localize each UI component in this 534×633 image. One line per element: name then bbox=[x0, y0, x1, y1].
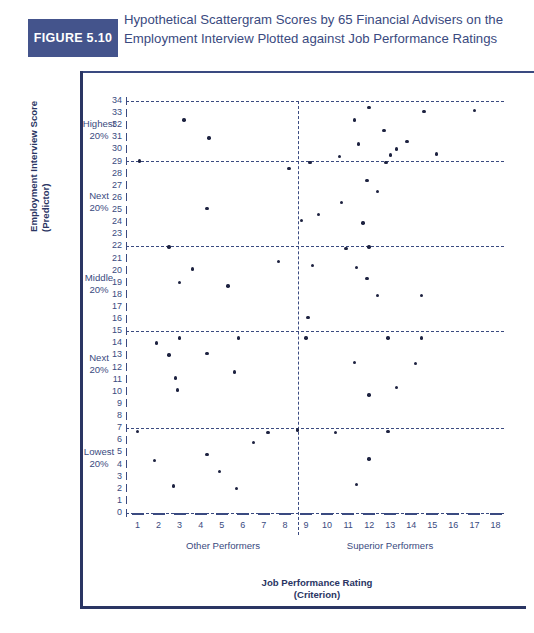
data-point bbox=[136, 430, 139, 433]
data-point bbox=[167, 353, 170, 356]
reference-line-vertical bbox=[298, 101, 299, 535]
data-point bbox=[376, 294, 379, 297]
band-label-percent: 20% bbox=[64, 202, 134, 214]
x-tick-label: 7 bbox=[254, 521, 274, 530]
x-tick-label: 16 bbox=[443, 521, 463, 530]
band-label-percent: 20% bbox=[64, 364, 134, 376]
reference-line-horizontal bbox=[126, 428, 505, 429]
data-point bbox=[308, 161, 311, 164]
y-tick-label: 23 bbox=[104, 229, 122, 238]
y-tick-label: 22 bbox=[104, 241, 122, 250]
y-tick-label: 19 bbox=[104, 278, 122, 287]
y-tick-label: 4 bbox=[104, 460, 122, 469]
data-point bbox=[365, 277, 368, 280]
x-tick-label: 2 bbox=[149, 521, 169, 530]
data-point bbox=[355, 266, 358, 269]
x-tick-label: 17 bbox=[464, 521, 484, 530]
data-point bbox=[306, 316, 309, 319]
x-tick-label: 9 bbox=[296, 521, 316, 530]
reference-line-horizontal bbox=[126, 161, 505, 162]
data-point bbox=[233, 370, 236, 373]
x-tick-label: 1 bbox=[128, 521, 148, 530]
y-tick-label: 27 bbox=[104, 181, 122, 190]
y-tick-label: 1 bbox=[104, 496, 122, 505]
data-point bbox=[300, 219, 303, 222]
data-point bbox=[191, 267, 194, 270]
data-point bbox=[473, 109, 476, 112]
y-tick-label: 2 bbox=[104, 484, 122, 493]
reference-line-baseline bbox=[126, 513, 505, 514]
data-point bbox=[172, 484, 175, 487]
y-axis-title: Employment Interview Score (Predictor) bbox=[28, 52, 51, 232]
data-point bbox=[167, 245, 170, 248]
data-point bbox=[311, 264, 314, 267]
y-tick-label: 13 bbox=[104, 350, 122, 359]
data-point bbox=[395, 147, 398, 150]
data-point bbox=[338, 155, 341, 158]
data-point bbox=[207, 136, 210, 139]
data-point bbox=[304, 336, 307, 339]
band-label-name: Middle bbox=[64, 272, 134, 284]
y-tick-label: 10 bbox=[104, 387, 122, 396]
group-label-1: Superior Performers bbox=[310, 540, 470, 551]
y-tick-label: 15 bbox=[104, 326, 122, 335]
data-point bbox=[317, 213, 320, 216]
x-tick-label: 8 bbox=[275, 521, 295, 530]
data-point bbox=[353, 361, 356, 364]
reference-line-horizontal bbox=[126, 246, 505, 247]
y-tick-label: 34 bbox=[104, 96, 122, 105]
y-tick-label: 20 bbox=[104, 266, 122, 275]
x-tick-label: 4 bbox=[191, 521, 211, 530]
data-point bbox=[340, 201, 343, 204]
band-label-name: Next bbox=[64, 352, 134, 364]
y-tick-label: 33 bbox=[104, 108, 122, 117]
data-point bbox=[235, 487, 238, 490]
y-tick-label: 9 bbox=[104, 399, 122, 408]
y-tick-label: 21 bbox=[104, 254, 122, 263]
data-point bbox=[226, 284, 229, 287]
x-axis-title-line2: (Criterion) bbox=[137, 589, 497, 601]
data-point bbox=[367, 393, 370, 396]
band-label-0: Highest20% bbox=[64, 118, 134, 141]
data-point bbox=[176, 388, 179, 391]
data-point bbox=[178, 281, 181, 284]
data-point bbox=[266, 431, 269, 434]
data-point bbox=[435, 152, 438, 155]
y-tick-label: 11 bbox=[104, 375, 122, 384]
data-point bbox=[420, 336, 423, 339]
y-tick-label: 14 bbox=[104, 338, 122, 347]
reference-line-horizontal bbox=[126, 101, 505, 102]
data-point bbox=[422, 110, 425, 113]
x-tick-label: 3 bbox=[170, 521, 190, 530]
band-label-3: Next20% bbox=[64, 352, 134, 375]
y-tick-label: 26 bbox=[104, 193, 122, 202]
data-point bbox=[367, 245, 370, 248]
y-tick-label: 31 bbox=[104, 132, 122, 141]
data-point bbox=[353, 118, 356, 121]
x-tick-label: 12 bbox=[359, 521, 379, 530]
data-point bbox=[355, 483, 358, 486]
reference-line-horizontal bbox=[126, 331, 505, 332]
band-label-percent: 20% bbox=[64, 458, 134, 470]
y-tick-label: 29 bbox=[104, 157, 122, 166]
y-tick-label: 17 bbox=[104, 302, 122, 311]
x-tick-label: 18 bbox=[486, 521, 506, 530]
x-tick-label: 14 bbox=[401, 521, 421, 530]
data-point bbox=[414, 362, 417, 365]
data-point bbox=[384, 161, 387, 164]
data-point bbox=[287, 167, 290, 170]
y-tick-label: 5 bbox=[104, 447, 122, 456]
data-point bbox=[182, 118, 185, 121]
x-axis-title: Job Performance Rating (Criterion) bbox=[137, 577, 497, 600]
y-tick-label: 8 bbox=[104, 411, 122, 420]
y-tick-label: 3 bbox=[104, 472, 122, 481]
y-tick-label: 12 bbox=[104, 363, 122, 372]
y-tick-label: 28 bbox=[104, 169, 122, 178]
data-point bbox=[420, 294, 423, 297]
x-tick-label: 6 bbox=[233, 521, 253, 530]
x-tick-label: 11 bbox=[338, 521, 358, 530]
x-axis-title-line1: Job Performance Rating bbox=[137, 577, 497, 589]
data-point bbox=[395, 386, 398, 389]
band-label-4: Lowest20% bbox=[64, 446, 134, 469]
group-label-0: Other Performers bbox=[143, 540, 303, 551]
